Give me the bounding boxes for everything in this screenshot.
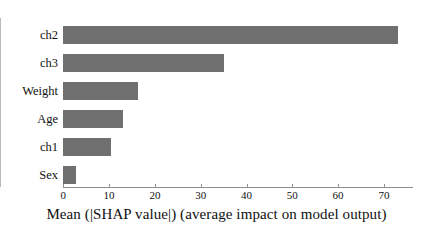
x-tick-mark-10 — [109, 184, 110, 188]
bar-ch2 — [63, 26, 397, 44]
x-tick-label-60: 60 — [323, 189, 353, 202]
shap-feature-importance-chart: ch2ch3WeightAgech1Sex 010203040506070 Me… — [0, 0, 433, 233]
x-tick-mark-50 — [292, 184, 293, 188]
x-axis-line — [63, 187, 413, 188]
bar-sex — [63, 166, 76, 184]
x-tick-label-20: 20 — [140, 189, 170, 202]
y-axis-line — [0, 18, 1, 187]
y-tick-label-ch2: ch2 — [40, 26, 58, 44]
x-tick-label-30: 30 — [186, 189, 216, 202]
y-tick-label-sex: Sex — [39, 166, 58, 184]
x-tick-mark-70 — [384, 184, 385, 188]
x-tick-label-50: 50 — [277, 189, 307, 202]
x-tick-mark-0 — [63, 184, 64, 188]
bar-ch1 — [63, 138, 111, 156]
y-tick-label-ch1: ch1 — [40, 138, 58, 156]
x-tick-label-10: 10 — [94, 189, 124, 202]
y-tick-label-ch3: ch3 — [40, 54, 58, 72]
bar-age — [63, 110, 123, 128]
x-axis-title: Mean (|SHAP value|) (average impact on m… — [0, 206, 433, 223]
x-tick-label-0: 0 — [48, 189, 78, 202]
x-tick-label-70: 70 — [369, 189, 399, 202]
bar-ch3 — [63, 54, 223, 72]
x-tick-mark-60 — [338, 184, 339, 188]
bar-weight — [63, 82, 138, 100]
y-tick-label-age: Age — [37, 110, 58, 128]
x-tick-label-40: 40 — [232, 189, 262, 202]
x-tick-mark-30 — [201, 184, 202, 188]
y-tick-label-weight: Weight — [22, 82, 58, 100]
x-tick-mark-40 — [247, 184, 248, 188]
x-tick-mark-20 — [155, 184, 156, 188]
